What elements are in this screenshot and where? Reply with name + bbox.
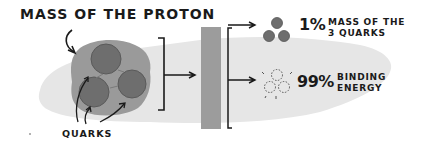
quark-mass-description-line2: 3 QUARKS — [328, 28, 405, 39]
quark-mass-description: MASS OF THE 3 QUARKS — [328, 17, 405, 39]
arrow-to-quarks-icon — [228, 22, 255, 28]
quarks-label: QUARKS — [62, 128, 112, 139]
diagram-title: MASS OF THE PROTON — [20, 6, 215, 22]
mass-bar — [201, 27, 221, 129]
quark-mass-description-line1: MASS OF THE — [328, 17, 405, 28]
binding-energy-description-line1: BINDING — [337, 72, 386, 83]
binding-energy-description: BINDING ENERGY — [337, 72, 386, 94]
quark-mass-percent: 1% — [299, 15, 325, 34]
binding-energy-description-line2: ENERGY — [337, 83, 386, 94]
binding-energy-percent: 99% — [297, 72, 334, 91]
